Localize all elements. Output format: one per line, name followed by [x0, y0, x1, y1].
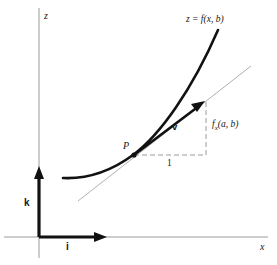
k-vector-arrowhead: [34, 166, 44, 179]
figure-canvas: [0, 0, 277, 265]
vector-v-label: v: [172, 122, 177, 132]
partial-arguments: (a, b): [218, 119, 239, 129]
k-vector-label: k: [24, 198, 30, 208]
run-label: 1: [167, 159, 172, 169]
vector-v-shaft: [134, 106, 199, 155]
z-axis-label: z: [44, 11, 48, 21]
point-P-label: P: [123, 141, 129, 151]
point-P-dot: [131, 152, 136, 157]
i-vector-arrowhead: [94, 232, 107, 242]
x-axis-label: x: [260, 242, 264, 252]
figure-root: z x z = f(x, b) P v 1 fx(a, b) k i: [0, 0, 277, 265]
trace-curve-label: z = f(x, b): [186, 15, 224, 25]
partial-derivative-label: fx(a, b): [212, 120, 238, 132]
i-vector-label: i: [66, 242, 69, 252]
